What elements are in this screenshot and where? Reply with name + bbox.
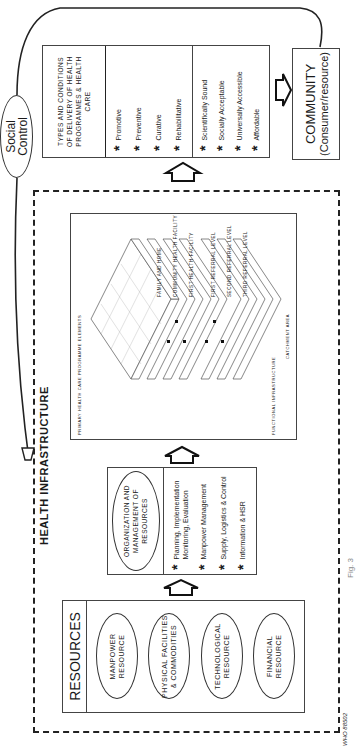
figure-id: WHO 88502 — [342, 713, 348, 746]
community-title: COMMUNITY — [303, 64, 318, 144]
asterisk-icon: * — [238, 565, 248, 570]
social-control-line2: Control — [17, 117, 29, 156]
org-item: *Information & HSR — [238, 472, 248, 570]
condition-item: *Scientifically Sound — [200, 52, 210, 151]
asterisk-icon: * — [199, 565, 209, 570]
layer-label: SECOND REFERRAL LEVEL — [227, 225, 232, 297]
delivery-conditions-list: *Scientifically Sound *Socially Acceptab… — [193, 46, 269, 157]
condition-item: *Socially Acceptable — [217, 52, 227, 151]
community-subtitle: (Consumer/resource) — [318, 52, 330, 156]
figure-caption: Fig. 3 — [346, 558, 355, 578]
asterisk-icon: * — [154, 146, 164, 151]
resource-manpower: MANPOWER RESOURCE — [96, 614, 138, 700]
layer-label: FIRST REFERRAL LEVEL — [211, 232, 216, 297]
org-item: *Manpower Management — [199, 472, 209, 570]
condition-item: *Affordable — [252, 52, 262, 151]
type-item: *Curative — [154, 52, 164, 151]
resource-physical-facilities: PHYSICAL FACILITIES & COMMODITIES — [148, 614, 190, 700]
diagram-label-catchment: Catchment area — [285, 314, 290, 359]
diagram-label-programme-elements: Primary health care programme elements — [77, 315, 82, 435]
diagram-canvas: Social Control HEALTH INFRASTRUCTURE RES… — [0, 0, 361, 748]
infrastructure-3d-diagram: Primary health care programme elements F… — [70, 213, 297, 440]
asterisk-icon: * — [174, 146, 184, 151]
stacked-layers-graphic — [71, 212, 298, 439]
resource-financial: FINANCIAL RESOURCE — [253, 614, 295, 700]
asterisk-icon: * — [235, 146, 245, 151]
community-box: COMMUNITY (Consumer/resource) — [292, 48, 340, 160]
type-item: *Rehabilitative — [174, 52, 184, 151]
asterisk-icon: * — [134, 146, 144, 151]
resource-technological: TECHNOLOGICAL RESOURCE — [201, 614, 243, 700]
social-control-ellipse: Social Control — [0, 95, 33, 178]
layer-label: FIRST HEALTH FACILITY — [189, 232, 194, 297]
asterisk-icon: * — [114, 146, 124, 151]
asterisk-icon: * — [200, 146, 210, 151]
asterisk-icon: * — [252, 146, 262, 151]
delivery-types-list: *Promotive *Preventive *Curative *Rehabi… — [106, 46, 193, 157]
types-header: TYPES AND CONDITIONS OF DELIVERY OF HEAL… — [43, 46, 106, 157]
social-control-feedback-line — [15, 178, 28, 452]
org-item: *Supply, Logistics & Control — [219, 472, 229, 570]
diagram-label-functional-infrastructure: Functional infrastructure — [271, 357, 276, 435]
type-item: *Promotive — [114, 52, 124, 151]
arrow-right-icon-3 — [166, 163, 200, 181]
resources-header: RESOURCES — [63, 601, 87, 712]
type-item: *Preventive — [134, 52, 144, 151]
health-infrastructure-title: HEALTH INFRASTRUCTURE — [38, 383, 50, 548]
layer-label: FAMILY AND HOME — [157, 247, 162, 297]
asterisk-icon: * — [219, 565, 229, 570]
asterisk-icon: * — [172, 565, 182, 570]
types-conditions-panel: TYPES AND CONDITIONS OF DELIVERY OF HEAL… — [42, 45, 270, 158]
asterisk-icon: * — [217, 146, 227, 151]
layer-label: COMMUNITY HEALTH FACILITY — [173, 215, 178, 297]
organization-header: ORGANIZATION AND MANAGEMENT OF RESOURCES — [112, 471, 160, 571]
resources-panel: RESOURCES MANPOWER RESOURCE PHYSICAL FAC… — [62, 600, 305, 713]
social-control-line1: Social — [5, 120, 17, 153]
org-item: *Planning, Implementation Monitoring, Ev… — [172, 472, 190, 570]
condition-item: *Universally Accessible — [235, 52, 245, 151]
layer-label: THIRD REFERRAL LEVEL — [243, 231, 248, 297]
arrow-down-icon — [276, 74, 291, 106]
organization-panel: ORGANIZATION AND MANAGEMENT OF RESOURCES… — [107, 467, 257, 575]
